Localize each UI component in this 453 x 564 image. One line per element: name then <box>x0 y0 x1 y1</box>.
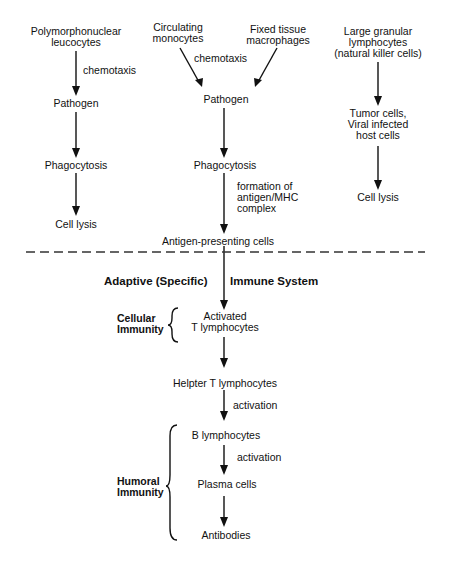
node-label: (natural killer cells) <box>334 48 422 59</box>
node-pathogen: Pathogen <box>54 98 99 109</box>
edge-label-line: complex <box>237 203 298 214</box>
node-phagocytosis: Phagocytosis <box>45 160 107 171</box>
adaptive-title-left: Adaptive (Specific) <box>104 276 208 287</box>
edge-label-activation-1: activation <box>233 400 277 411</box>
node-large-granular-lymphocytes: Large granular lymphocytes (natural kill… <box>334 26 422 59</box>
label-line: Immunity <box>117 487 164 498</box>
node-circulating-monocytes: Circulating monocytes <box>153 22 204 44</box>
node-activated-t-lymphocytes: Activated T lymphocytes <box>191 311 259 333</box>
humoral-immunity-label: Humoral Immunity <box>117 476 164 498</box>
label-line: Immunity <box>117 324 164 335</box>
edge-label-chemotaxis: chemotaxis <box>83 65 136 76</box>
node-antibodies: Antibodies <box>201 530 250 541</box>
humoral-brace <box>166 425 177 540</box>
edge-label-antigen-mhc: formation of antigen/MHC complex <box>237 181 298 214</box>
edge-label-activation-2: activation <box>237 452 281 463</box>
node-fixed-tissue-macrophages: Fixed tissue macrophages <box>246 24 310 46</box>
node-label: leucocytes <box>31 37 121 48</box>
node-label: monocytes <box>153 33 204 44</box>
node-label: T lymphocytes <box>191 322 259 333</box>
edge-label-chemotaxis-2: chemotaxis <box>194 53 247 64</box>
node-cell-lysis-nk: Cell lysis <box>357 192 398 203</box>
node-polymorphonuclear-leucocytes: Polymorphonuclear leucocytes <box>31 26 121 48</box>
node-antigen-presenting-cells: Antigen-presenting cells <box>162 236 274 247</box>
cellular-brace <box>168 308 178 342</box>
node-phagocytosis-2: Phagocytosis <box>194 160 256 171</box>
node-label: macrophages <box>246 35 310 46</box>
node-tumor-viral-cells: Tumor cells, Viral infected host cells <box>348 108 409 141</box>
adaptive-title-right: Immune System <box>230 276 318 287</box>
node-pathogen-2: Pathogen <box>204 94 249 105</box>
cellular-immunity-label: Cellular Immunity <box>117 313 164 335</box>
node-cell-lysis: Cell lysis <box>55 219 96 230</box>
node-helper-t-lymphocytes: Helpter T lymphocytes <box>173 378 277 389</box>
node-b-lymphocytes: B lymphocytes <box>192 430 260 441</box>
node-label: host cells <box>348 130 409 141</box>
node-plasma-cells: Plasma cells <box>198 479 257 490</box>
